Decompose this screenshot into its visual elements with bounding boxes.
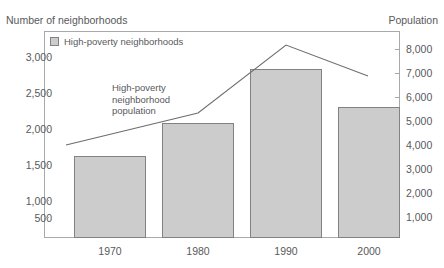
chart-container: Number of neighborhoods Population High-… <box>0 0 444 268</box>
right-tick-label: 3,000 <box>406 163 432 175</box>
right-axis-title: Population <box>388 14 438 26</box>
left-tick-label: 2,500 <box>26 87 52 99</box>
bar-1970 <box>74 156 146 238</box>
x-tick-label-1980: 1980 <box>162 245 234 257</box>
left-axis-title: Number of neighborhoods <box>6 14 127 26</box>
right-tick-label: 7,000 <box>406 67 432 79</box>
right-tick-label: 6,000 <box>406 91 432 103</box>
left-tick-label: 500 <box>34 212 52 224</box>
annotation-line-2: neighborhood <box>112 94 190 106</box>
left-tick-mark <box>44 128 49 129</box>
right-tick-mark <box>395 97 400 98</box>
annotation-line-3: population <box>112 105 190 117</box>
left-tick-mark <box>44 92 49 93</box>
right-tick-label: 8,000 <box>406 43 432 55</box>
bar-2000 <box>338 107 400 238</box>
trend-line-annotation: High-poverty neighborhood population <box>112 82 190 117</box>
left-tick-mark <box>44 217 49 218</box>
right-tick-label: 2,000 <box>406 187 432 199</box>
left-tick-label: 3,000 <box>26 51 52 63</box>
left-tick-mark <box>44 164 49 165</box>
right-tick-label: 1,000 <box>406 211 432 223</box>
right-tick-mark <box>395 73 400 74</box>
bar-1980 <box>162 123 234 238</box>
right-tick-mark <box>395 49 400 50</box>
x-tick-label-1990: 1990 <box>250 245 322 257</box>
left-tick-mark <box>44 56 49 57</box>
right-tick-label: 5,000 <box>406 115 432 127</box>
left-tick-mark <box>44 200 49 201</box>
legend: High-poverty neighborhoods <box>50 36 183 47</box>
bar-1990 <box>250 69 322 238</box>
right-tick-label: 4,000 <box>406 139 432 151</box>
left-tick-label: 1,000 <box>26 195 52 207</box>
legend-swatch-icon <box>50 37 59 46</box>
x-tick-label-1970: 1970 <box>74 245 146 257</box>
left-tick-label: 2,000 <box>26 123 52 135</box>
x-tick-label-2000: 2000 <box>338 245 400 257</box>
left-tick-label: 1,500 <box>26 159 52 171</box>
legend-label: High-poverty neighborhoods <box>64 36 183 47</box>
annotation-line-1: High-poverty <box>112 82 190 94</box>
